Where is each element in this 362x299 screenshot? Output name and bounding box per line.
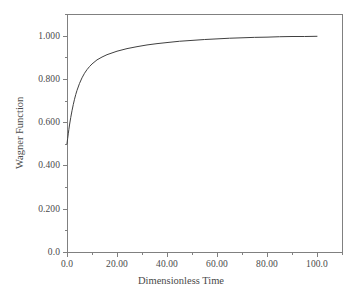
series-line-0 bbox=[67, 36, 317, 144]
x-tick-label-4: 80.00 bbox=[256, 259, 278, 269]
y-axis-title: Wagner Function bbox=[14, 97, 25, 169]
y-tick-label-5: 1.000 bbox=[0, 31, 60, 41]
y-axis-ticks bbox=[63, 15, 68, 253]
x-axis-title: Dimensionless Time bbox=[0, 275, 362, 286]
y-tick-label-1: 0.200 bbox=[0, 204, 60, 214]
y-tick-label-4: 0.800 bbox=[0, 74, 60, 84]
x-tick-label-2: 40.00 bbox=[156, 259, 178, 269]
x-tick-label-3: 60.00 bbox=[206, 259, 228, 269]
wagner-function-chart: 0.020.0040.0060.0080.00100.0 0.00.2000.4… bbox=[0, 0, 362, 299]
axes-frame bbox=[67, 14, 342, 252]
x-tick-label-0: 0.0 bbox=[61, 259, 73, 269]
y-tick-label-3: 0.600 bbox=[0, 117, 60, 127]
y-tick-label-0: 0.0 bbox=[0, 247, 60, 257]
x-tick-label-1: 20.00 bbox=[106, 259, 128, 269]
data-series-group bbox=[67, 36, 317, 144]
y-tick-label-2: 0.400 bbox=[0, 160, 60, 170]
x-tick-label-5: 100.0 bbox=[306, 259, 328, 269]
x-axis-ticks bbox=[68, 252, 343, 257]
